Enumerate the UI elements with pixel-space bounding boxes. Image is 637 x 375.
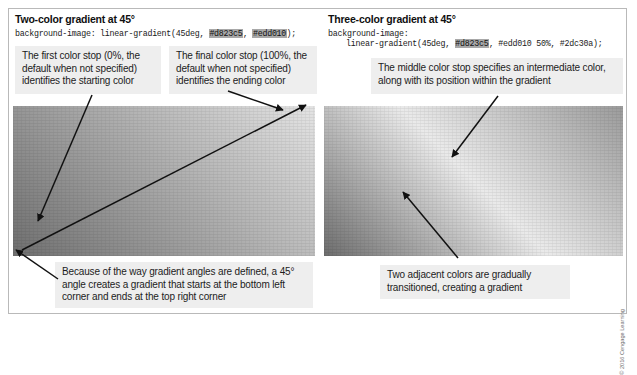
panel-three-color-gradient: Three-color gradient at 45° background-i… (324, 9, 628, 313)
code-indent-three-color: linear-gradient(45deg, (346, 39, 455, 48)
code-color-stop-2-three-color: #edd010 50% (498, 39, 550, 48)
code-terminator-three-color: ); (593, 39, 602, 48)
callout-angle-explanation: Because of the way gradient angles are d… (55, 262, 313, 308)
code-separator-2-three-color: , (550, 39, 559, 48)
panel-heading-three-color: Three-color gradient at 45° (328, 13, 456, 25)
code-snippet-two-color: background-image: linear-gradient(45deg,… (15, 29, 296, 38)
code-separator-1-three-color: , (489, 39, 498, 48)
three-color-gradient-preview (324, 106, 623, 256)
code-color-stop-3-three-color: #2dc30a (560, 39, 593, 48)
callout-first-color-stop: The first color stop (0%, the default wh… (15, 46, 161, 94)
code-property-two-color: background-image: linear-gradient(45deg, (15, 29, 209, 38)
panel-two-color-gradient: Two-color gradient at 45° background-ima… (9, 9, 319, 313)
code-property-line-three-color: background-image: (328, 29, 408, 38)
figure-frame: Two-color gradient at 45° background-ima… (8, 8, 627, 314)
print-grain-texture-left (13, 106, 315, 256)
print-grain-texture-right (324, 106, 623, 256)
panel-heading-two-color: Two-color gradient at 45° (15, 13, 135, 25)
code-color-stop-2-two-color: #edd010 (252, 29, 286, 38)
code-snippet-three-color: linear-gradient(45deg, #d823c5, #edd010 … (346, 39, 602, 48)
code-color-stop-1-three-color: #d823c5 (455, 39, 489, 48)
code-terminator-two-color: ); (287, 29, 296, 38)
two-color-gradient-preview (13, 106, 315, 256)
callout-final-color-stop: The final color stop (100%, the default … (169, 46, 317, 94)
copyright-notice: © 2016 Cengage Learning (619, 309, 625, 375)
callout-middle-color-stop: The middle color stop specifies an inter… (371, 58, 623, 94)
callout-adjacent-colors: Two adjacent colors are gradually transi… (380, 265, 570, 299)
code-color-stop-1-two-color: #d823c5 (209, 29, 243, 38)
